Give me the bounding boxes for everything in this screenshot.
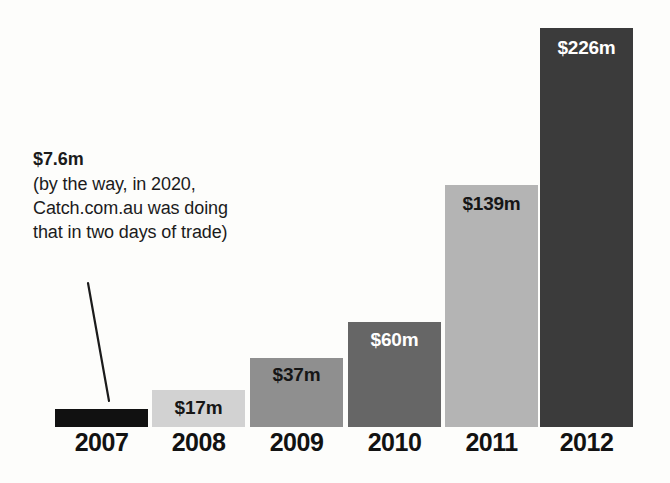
bar-2009: $37m	[250, 358, 343, 427]
bar-2008: $17m	[152, 390, 245, 427]
x-axis-label-2011: 2011	[445, 429, 538, 456]
bar-2012: $226m	[540, 28, 633, 427]
bar-chart: $7.6m $17m $37m $60m $139m $226m 2007 20…	[0, 0, 670, 483]
bar-2007: $7.6m	[55, 409, 148, 427]
bar-value-2008: $17m	[152, 398, 245, 417]
bar-value-2011: $139m	[445, 194, 538, 213]
x-axis-label-2007: 2007	[55, 429, 148, 456]
annotation-amount: $7.6m	[33, 148, 248, 172]
x-axis-label-2008: 2008	[152, 429, 245, 456]
x-axis-label-2010: 2010	[348, 429, 441, 456]
bar-value-2009: $37m	[250, 365, 343, 384]
bar-value-2012: $226m	[540, 38, 633, 57]
annotation-note: (by the way, in 2020, Catch.com.au was d…	[33, 173, 248, 245]
bar-value-2010: $60m	[348, 330, 441, 349]
x-axis-label-2009: 2009	[250, 429, 343, 456]
x-axis-label-2012: 2012	[540, 429, 633, 456]
annotation-2007: $7.6m (by the way, in 2020, Catch.com.au…	[33, 148, 248, 245]
bar-2011: $139m	[445, 185, 538, 427]
bar-2010: $60m	[348, 322, 441, 427]
